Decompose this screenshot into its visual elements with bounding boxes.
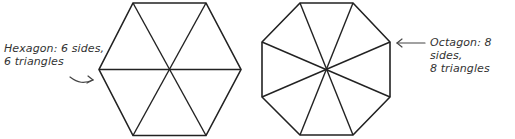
- hexagon-label-line1: Hexagon: 6 sides,: [4, 42, 104, 55]
- hexagon: [99, 3, 241, 136]
- octagon: [262, 3, 390, 135]
- hexagon-arrow-icon: [70, 76, 93, 83]
- hexagon-annotation: Hexagon: 6 sides, 6 triangles: [4, 42, 104, 68]
- octagon-annotation: Octagon: 8 sides, 8 triangles: [430, 36, 515, 75]
- octagon-label-line1: Octagon: 8 sides,: [430, 36, 515, 62]
- octagon-label-line2: 8 triangles: [430, 62, 515, 75]
- hexagon-label-line2: 6 triangles: [4, 55, 104, 68]
- octagon-arrow-icon: [397, 39, 425, 47]
